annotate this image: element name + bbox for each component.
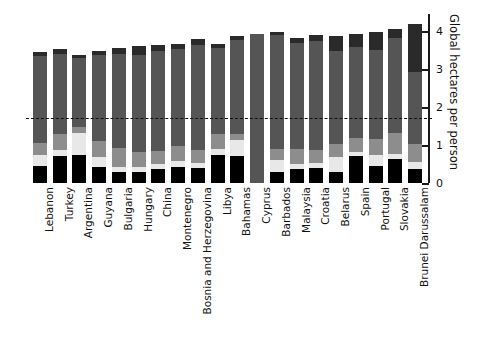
bar-segment-series-1 — [132, 172, 146, 183]
bar-segment-series-4 — [309, 41, 323, 150]
bar-segment-series-4 — [211, 48, 225, 134]
bar-segment-series-5 — [132, 46, 146, 54]
stacked-bar-chart: 01234 Global hectares per person Lebanon… — [0, 0, 480, 342]
y-tick-4 — [422, 31, 429, 33]
y-tick-label-2: 2 — [436, 102, 443, 113]
bar-guyana[interactable] — [92, 51, 106, 183]
bar-segment-series-4 — [270, 35, 284, 149]
bar-segment-series-1 — [230, 156, 244, 183]
x-tick-label-montenegro: Montenegro — [182, 187, 193, 250]
bar-segment-series-4 — [171, 49, 185, 146]
bar-barbados[interactable] — [270, 32, 284, 183]
bar-spain[interactable] — [349, 34, 363, 183]
bar-bulgaria[interactable] — [112, 48, 126, 183]
x-tick-label-bulgaria: Bulgaria — [123, 187, 134, 231]
bar-segment-series-4 — [230, 40, 244, 133]
bar-slovakia[interactable] — [388, 29, 402, 183]
bar-segment-series-4 — [112, 54, 126, 148]
x-tick-label-croatia: Croatia — [320, 187, 331, 225]
x-tick-label-barbados: Barbados — [281, 187, 292, 237]
y-tick-label-1: 1 — [436, 140, 443, 151]
x-tick-label-argentina: Argentina — [83, 187, 94, 238]
bar-segment-series-4 — [53, 54, 67, 135]
bar-segment-series-5 — [388, 29, 402, 38]
bar-segment-series-3 — [33, 143, 47, 154]
x-tick-label-belarus: Belarus — [340, 187, 351, 226]
bar-segment-series-4 — [250, 34, 264, 183]
bar-segment-series-3 — [309, 150, 323, 163]
bar-segment-series-1 — [290, 169, 304, 183]
bar-segment-series-4 — [349, 47, 363, 138]
bar-segment-series-2 — [92, 157, 106, 167]
bar-segment-series-1 — [270, 172, 284, 183]
bar-segment-series-3 — [290, 149, 304, 164]
bar-portugal[interactable] — [369, 31, 383, 183]
y-axis-line — [428, 14, 430, 183]
bar-segment-series-3 — [171, 146, 185, 161]
bar-segment-series-3 — [53, 134, 67, 150]
bar-segment-series-3 — [191, 150, 205, 164]
bar-segment-series-1 — [112, 172, 126, 183]
bar-segment-series-1 — [171, 167, 185, 183]
x-tick-label-lebanon: Lebanon — [44, 187, 55, 232]
bar-segment-series-1 — [329, 172, 343, 183]
bar-segment-series-3 — [92, 141, 106, 157]
bar-bahamas[interactable] — [230, 36, 244, 183]
x-tick-label-libya: Libya — [222, 187, 233, 215]
bar-segment-series-5 — [329, 36, 343, 50]
y-tick-2 — [422, 107, 429, 109]
bar-segment-series-3 — [112, 148, 126, 167]
bar-segment-series-1 — [349, 156, 363, 183]
bar-segment-series-4 — [132, 55, 146, 152]
bar-montenegro[interactable] — [171, 44, 185, 183]
bar-segment-series-3 — [349, 138, 363, 152]
y-tick-0 — [422, 183, 429, 185]
bar-turkey[interactable] — [53, 49, 67, 183]
x-tick-label-turkey: Turkey — [64, 187, 75, 221]
bar-segment-series-1 — [369, 166, 383, 183]
bar-segment-series-3 — [369, 139, 383, 154]
x-tick-label-spain: Spain — [360, 187, 371, 216]
bar-malaysia[interactable] — [290, 38, 304, 183]
bar-segment-series-4 — [408, 72, 422, 144]
y-axis-title: Global hectares per person — [446, 14, 462, 183]
x-tick-label-guyana: Guyana — [103, 187, 114, 228]
bar-segment-series-2 — [270, 160, 284, 171]
bar-segment-series-3 — [329, 144, 343, 157]
y-tick-label-0: 0 — [436, 178, 443, 189]
bar-segment-series-2 — [408, 162, 422, 170]
y-tick-label-3: 3 — [436, 64, 443, 75]
bar-belarus[interactable] — [329, 36, 343, 183]
x-tick-label-china: China — [162, 187, 173, 217]
bar-cyprus[interactable] — [250, 34, 264, 183]
bar-segment-series-4 — [329, 51, 343, 144]
bar-segment-series-2 — [329, 157, 343, 171]
bar-bosnia-and-herzegovina[interactable] — [191, 39, 205, 183]
x-tick-label-bosnia-and-herzegovina: Bosnia and Herzegovina — [202, 187, 213, 315]
bar-segment-series-5 — [349, 34, 363, 47]
bar-segment-series-5 — [369, 32, 383, 51]
bar-hungary[interactable] — [132, 46, 146, 183]
bar-segment-series-1 — [92, 167, 106, 183]
bar-segment-series-2 — [369, 155, 383, 166]
bar-segment-series-2 — [72, 133, 86, 155]
bar-segment-series-4 — [290, 43, 304, 149]
bar-libya[interactable] — [211, 44, 225, 183]
bar-china[interactable] — [151, 45, 165, 183]
bar-croatia[interactable] — [309, 35, 323, 183]
x-axis-tick-labels: LebanonTurkeyArgentinaGuyanaBulgariaHung… — [30, 187, 425, 337]
bar-segment-series-4 — [369, 50, 383, 139]
bar-segment-series-5 — [408, 24, 422, 73]
x-tick-label-slovakia: Slovakia — [399, 187, 410, 231]
bar-brunei-darussalam[interactable] — [408, 24, 422, 184]
bar-segment-series-1 — [211, 155, 225, 183]
x-tick-label-cyprus: Cyprus — [261, 187, 272, 224]
x-tick-label-malaysia: Malaysia — [301, 187, 312, 233]
x-tick-label-portugal: Portugal — [380, 187, 391, 231]
x-tick-label-hungary: Hungary — [143, 187, 154, 232]
reference-line-dashed — [26, 118, 432, 119]
bar-segment-series-1 — [408, 169, 422, 183]
x-tick-label-brunei-darussalam: Brunei Darussalam — [419, 187, 430, 287]
bar-segment-series-3 — [151, 151, 165, 164]
bar-segment-series-1 — [151, 169, 165, 183]
